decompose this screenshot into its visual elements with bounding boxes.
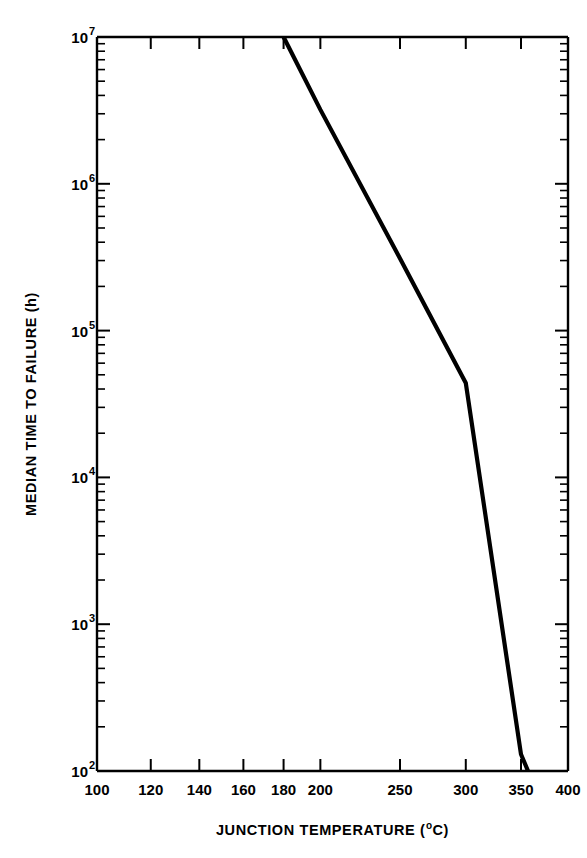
y-tick-label-exponent: 4: [89, 465, 96, 477]
y-tick-label-exponent: 3: [89, 612, 95, 624]
y-tick-label-exponent: 7: [89, 25, 95, 37]
x-tick-label: 350: [508, 781, 533, 798]
x-axis-title-text: JUNCTION TEMPERATURE (: [216, 822, 426, 838]
y-tick-label-base: 10: [71, 323, 88, 340]
x-tick-label: 250: [388, 781, 413, 798]
y-axis-tick-labels: 107106105104103102: [71, 25, 96, 780]
y-tick-label-base: 10: [71, 29, 88, 46]
y-tick-label-exponent: 5: [89, 319, 95, 331]
y-tick-label-base: 10: [71, 176, 88, 193]
x-tick-label: 300: [453, 781, 478, 798]
y-tick-label-base: 10: [71, 763, 88, 780]
y-tick-label-base: 10: [71, 469, 88, 486]
x-tick-label: 400: [555, 781, 580, 798]
chart-svg: 107106105104103102 100120140160180200250…: [0, 0, 587, 858]
x-axis-title-tail: C): [433, 822, 450, 838]
x-tick-label: 120: [138, 781, 163, 798]
x-axis-title: JUNCTION TEMPERATURE ( o C): [216, 820, 449, 838]
x-tick-label: 160: [231, 781, 256, 798]
plot-area-background: [97, 37, 568, 771]
y-tick-label-base: 10: [71, 616, 88, 633]
arrhenius-chart-figure: 107106105104103102 100120140160180200250…: [0, 0, 587, 858]
x-axis-title-degree-superscript: o: [426, 820, 432, 831]
x-tick-label: 140: [187, 781, 212, 798]
x-tick-label: 180: [271, 781, 296, 798]
y-axis-title: MEDIAN TIME TO FAILURE (h): [23, 292, 39, 516]
y-tick-label-exponent: 6: [89, 172, 95, 184]
y-axis-title-text: MEDIAN TIME TO FAILURE (h): [23, 292, 39, 516]
y-tick-label-exponent: 2: [89, 759, 95, 771]
x-tick-label: 200: [308, 781, 333, 798]
x-axis-tick-labels: 100120140160180200250300350400: [84, 781, 580, 798]
x-tick-label: 100: [84, 781, 109, 798]
